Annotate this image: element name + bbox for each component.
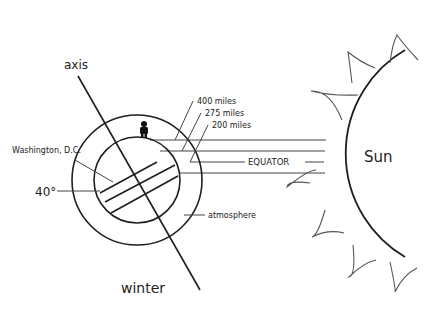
atmosphere-label: atmosphere — [208, 211, 256, 220]
earth-axis-line — [78, 76, 200, 290]
latitude-line-1 — [100, 162, 157, 193]
earth — [72, 76, 202, 290]
axis-label: axis — [64, 58, 88, 72]
sun-rays — [150, 140, 326, 173]
latitude-40-label: 40° — [35, 185, 56, 199]
distance-275-label: 275 miles — [205, 109, 244, 118]
equator-label: EQUATOR — [248, 157, 289, 167]
leader-lines — [57, 101, 208, 215]
distance-200-label: 200 miles — [212, 121, 251, 130]
distance-400-label: 400 miles — [197, 97, 236, 106]
sun-label: Sun — [364, 148, 393, 166]
earth-sun-winter-diagram: axis winter Washington, D.C. 40° atmosph… — [0, 0, 434, 314]
person-icon — [140, 121, 148, 138]
winter-label: winter — [121, 280, 165, 296]
sun — [287, 35, 418, 292]
washington-label: Washington, D.C. — [12, 146, 81, 155]
